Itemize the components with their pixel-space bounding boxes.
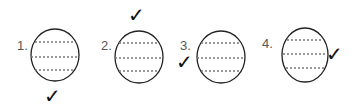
circle-4 — [282, 28, 328, 82]
checkmark-icon-1: ✓ — [44, 86, 61, 106]
label-1: 1. — [17, 38, 28, 53]
checkmark-icon-4: ✓ — [326, 44, 343, 64]
circle-1 — [31, 29, 79, 81]
checkmark-icon-3: ✓ — [176, 52, 193, 72]
checkmark-icon-2: ✓ — [128, 5, 145, 25]
label-2: 2. — [101, 38, 112, 53]
circle-2 — [115, 31, 163, 83]
circle-3 — [197, 31, 245, 83]
label-4: 4. — [262, 36, 273, 51]
